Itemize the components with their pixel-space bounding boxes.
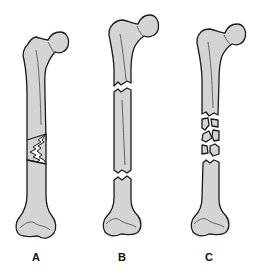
femur-b (103, 15, 158, 236)
femur-a (16, 32, 68, 238)
panel-label-c: C (205, 251, 213, 263)
femur-b-proximal (109, 15, 159, 86)
femur-a-proximal (23, 32, 68, 140)
fragment (212, 130, 219, 141)
femur-c-proximal (197, 24, 246, 116)
femur-c (191, 24, 245, 236)
panel-label-b: B (118, 251, 126, 263)
femur-b-segment (114, 88, 131, 173)
panel-label-a: A (32, 251, 40, 263)
fragment (202, 118, 209, 130)
fragment (202, 131, 212, 142)
femur-fracture-diagram (0, 0, 267, 277)
fragment (210, 144, 219, 156)
fragment (202, 145, 208, 154)
fragment (211, 119, 218, 127)
femur-c-distal (191, 160, 229, 236)
